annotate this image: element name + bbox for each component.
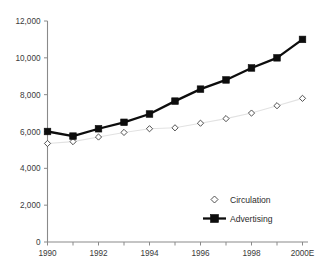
y-axis: 02,0004,0006,0008,00010,00012,000 (15, 17, 47, 247)
advertising-line (48, 39, 303, 136)
circulation-line (48, 98, 303, 143)
x-tick-label: 2000E (291, 249, 315, 258)
y-tick-label: 2,000 (20, 201, 41, 210)
data-point-circulation (121, 129, 127, 135)
data-point-advertising (248, 65, 255, 72)
data-point-circulation (223, 116, 229, 122)
data-point-circulation (248, 110, 254, 116)
legend-label-advertising: Advertising (230, 214, 273, 224)
x-axis: 199019921994199619982000E (38, 242, 314, 258)
data-point-circulation (172, 125, 178, 131)
data-point-circulation (44, 140, 50, 146)
filled-square-icon (211, 215, 219, 223)
y-tick-label: 8,000 (20, 91, 41, 100)
x-tick-label: 1992 (89, 249, 108, 258)
y-tick-label: 4,000 (20, 164, 41, 173)
data-point-circulation (274, 103, 280, 109)
line-chart: 02,0004,0006,0008,00010,00012,000 199019… (0, 0, 321, 271)
y-tick-label: 12,000 (15, 17, 40, 26)
y-tick-label: 6,000 (20, 128, 41, 137)
x-tick-label: 1998 (242, 249, 261, 258)
legend-item-advertising: Advertising (203, 214, 273, 224)
data-point-circulation (299, 95, 305, 101)
x-tick-label: 1994 (140, 249, 159, 258)
data-point-advertising (223, 77, 230, 84)
series-advertising (44, 36, 306, 139)
data-point-circulation (146, 126, 152, 132)
x-tick-labels: 199019921994199619982000E (38, 249, 314, 258)
legend-label-circulation: Circulation (230, 195, 271, 205)
open-diamond-icon (211, 196, 218, 203)
data-point-advertising (172, 98, 179, 105)
data-point-advertising (70, 133, 77, 140)
y-tick-labels: 02,0004,0006,0008,00010,00012,000 (15, 17, 40, 247)
x-tick-label: 1996 (191, 249, 210, 258)
y-tick-label: 0 (36, 238, 41, 247)
data-point-circulation (95, 134, 101, 140)
data-point-circulation (197, 120, 203, 126)
data-point-advertising (44, 128, 51, 135)
x-tick-label: 1990 (38, 249, 57, 258)
data-point-advertising (121, 119, 128, 126)
advertising-markers (44, 36, 306, 139)
data-point-advertising (95, 125, 102, 132)
data-point-advertising (197, 86, 204, 93)
data-point-advertising (299, 36, 306, 43)
data-point-advertising (274, 55, 281, 62)
y-tick-label: 10,000 (15, 54, 40, 63)
legend: Circulation Advertising (203, 195, 273, 224)
data-point-advertising (146, 111, 153, 118)
chart-canvas: 02,0004,0006,0008,00010,00012,000 199019… (0, 0, 321, 271)
legend-item-circulation: Circulation (211, 195, 271, 205)
